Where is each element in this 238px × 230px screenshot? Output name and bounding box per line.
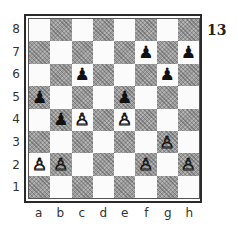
- square-h7[interactable]: ♟: [178, 41, 199, 63]
- square-a2[interactable]: ♙: [29, 153, 50, 175]
- rank-label: 6: [10, 67, 22, 81]
- square-a6[interactable]: [29, 64, 50, 86]
- square-h2[interactable]: ♙: [178, 153, 199, 175]
- square-g7[interactable]: [157, 41, 178, 63]
- file-label: h: [179, 206, 201, 220]
- chess-board[interactable]: ♟♟♟♟♟♟♟♙♙♙♙♙♙♙: [28, 18, 200, 199]
- rank-label: 3: [10, 135, 22, 149]
- square-e8[interactable]: [114, 19, 135, 41]
- square-e2[interactable]: [114, 153, 135, 175]
- square-a5[interactable]: ♟: [29, 86, 50, 108]
- square-b6[interactable]: [50, 64, 71, 86]
- file-label: c: [71, 206, 93, 220]
- square-f1[interactable]: [135, 176, 156, 198]
- file-label: b: [50, 206, 72, 220]
- square-c5[interactable]: [72, 86, 93, 108]
- square-d8[interactable]: [93, 19, 114, 41]
- square-g5[interactable]: [157, 86, 178, 108]
- square-e7[interactable]: [114, 41, 135, 63]
- white-pawn-icon[interactable]: ♙: [160, 134, 175, 151]
- square-d5[interactable]: [93, 86, 114, 108]
- square-b3[interactable]: [50, 131, 71, 153]
- black-pawn-icon[interactable]: ♟: [53, 111, 68, 128]
- square-g1[interactable]: [157, 176, 178, 198]
- white-pawn-icon[interactable]: ♙: [138, 156, 153, 173]
- black-pawn-icon[interactable]: ♟: [181, 44, 196, 61]
- square-a8[interactable]: [29, 19, 50, 41]
- black-pawn-icon[interactable]: ♟: [138, 44, 153, 61]
- square-h6[interactable]: [178, 64, 199, 86]
- white-pawn-icon[interactable]: ♙: [32, 156, 47, 173]
- square-e6[interactable]: [114, 64, 135, 86]
- rank-label: 1: [10, 180, 22, 194]
- square-b8[interactable]: [50, 19, 71, 41]
- file-label: e: [114, 206, 136, 220]
- square-f4[interactable]: [135, 109, 156, 131]
- square-g2[interactable]: [157, 153, 178, 175]
- white-pawn-icon[interactable]: ♙: [75, 111, 90, 128]
- square-e3[interactable]: [114, 131, 135, 153]
- square-b5[interactable]: [50, 86, 71, 108]
- white-pawn-icon[interactable]: ♙: [53, 156, 68, 173]
- square-c4[interactable]: ♙: [72, 109, 93, 131]
- square-a1[interactable]: [29, 176, 50, 198]
- square-a7[interactable]: [29, 41, 50, 63]
- square-d7[interactable]: [93, 41, 114, 63]
- square-d4[interactable]: [93, 109, 114, 131]
- square-g3[interactable]: ♙: [157, 131, 178, 153]
- square-e4[interactable]: ♙: [114, 109, 135, 131]
- white-pawn-icon[interactable]: ♙: [117, 111, 132, 128]
- square-e1[interactable]: [114, 176, 135, 198]
- square-b1[interactable]: [50, 176, 71, 198]
- square-g4[interactable]: [157, 109, 178, 131]
- square-h4[interactable]: [178, 109, 199, 131]
- rank-label: 5: [10, 90, 22, 104]
- square-f8[interactable]: [135, 19, 156, 41]
- square-h3[interactable]: [178, 131, 199, 153]
- file-label: a: [28, 206, 50, 220]
- white-pawn-icon[interactable]: ♙: [181, 156, 196, 173]
- square-b2[interactable]: ♙: [50, 153, 71, 175]
- square-b4[interactable]: ♟: [50, 109, 71, 131]
- square-d6[interactable]: [93, 64, 114, 86]
- diagram-number: 13: [207, 22, 226, 38]
- square-d2[interactable]: [93, 153, 114, 175]
- square-d1[interactable]: [93, 176, 114, 198]
- rank-label: 7: [10, 45, 22, 59]
- square-a3[interactable]: [29, 131, 50, 153]
- square-c8[interactable]: [72, 19, 93, 41]
- square-c3[interactable]: [72, 131, 93, 153]
- square-e5[interactable]: ♟: [114, 86, 135, 108]
- square-c7[interactable]: [72, 41, 93, 63]
- square-f2[interactable]: ♙: [135, 153, 156, 175]
- black-pawn-icon[interactable]: ♟: [32, 89, 47, 106]
- file-label: d: [93, 206, 115, 220]
- black-pawn-icon[interactable]: ♟: [117, 89, 132, 106]
- square-h1[interactable]: [178, 176, 199, 198]
- square-f7[interactable]: ♟: [135, 41, 156, 63]
- square-c1[interactable]: [72, 176, 93, 198]
- file-label: f: [136, 206, 158, 220]
- black-pawn-icon[interactable]: ♟: [160, 66, 175, 83]
- square-h8[interactable]: [178, 19, 199, 41]
- square-a4[interactable]: [29, 109, 50, 131]
- square-g6[interactable]: ♟: [157, 64, 178, 86]
- square-b7[interactable]: [50, 41, 71, 63]
- square-h5[interactable]: [178, 86, 199, 108]
- square-c6[interactable]: ♟: [72, 64, 93, 86]
- square-f3[interactable]: [135, 131, 156, 153]
- square-c2[interactable]: [72, 153, 93, 175]
- rank-label: 2: [10, 158, 22, 172]
- rank-label: 4: [10, 112, 22, 126]
- square-d3[interactable]: [93, 131, 114, 153]
- square-f5[interactable]: [135, 86, 156, 108]
- file-label: g: [157, 206, 179, 220]
- black-pawn-icon[interactable]: ♟: [75, 66, 90, 83]
- rank-label: 8: [10, 22, 22, 36]
- square-f6[interactable]: [135, 64, 156, 86]
- square-g8[interactable]: [157, 19, 178, 41]
